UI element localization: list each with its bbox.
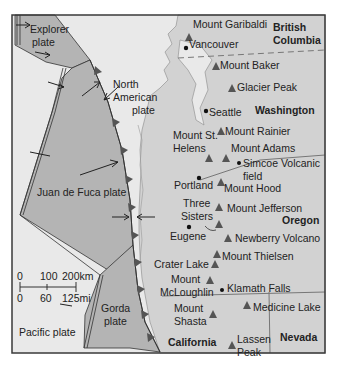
city-vancouver xyxy=(184,46,188,50)
label-juan-de-fuca-plate: Juan de Fuca plate xyxy=(37,186,126,198)
cascadia-map: Explorer plate North American plate Juan… xyxy=(0,0,338,374)
label-north-american-1: North xyxy=(113,78,139,90)
label-newberry-volcano: Newberry Volcano xyxy=(235,232,320,244)
label-mount-mcloughlin-1: Mount xyxy=(171,273,200,285)
label-portland: Portland xyxy=(174,179,213,191)
label-klamath-falls: Klamath Falls xyxy=(227,282,291,294)
label-crater-lake: Crater Lake xyxy=(154,258,209,270)
label-british-columbia-2: Columbia xyxy=(273,34,321,46)
scale-km-100: 100 xyxy=(40,270,58,282)
label-gorda-plate-1: Gorda xyxy=(101,302,130,314)
city-seattle xyxy=(204,109,208,113)
label-british-columbia-1: British xyxy=(273,21,306,33)
label-three-sisters-1: Three xyxy=(183,197,211,209)
label-mount-baker: Mount Baker xyxy=(220,59,280,71)
scale-mi-60: 60 xyxy=(40,292,52,304)
label-medicine-lake: Medicine Lake xyxy=(253,301,321,313)
label-north-american-3: plate xyxy=(132,104,155,116)
label-gorda-plate-2: plate xyxy=(104,315,127,327)
label-seattle: Seattle xyxy=(209,106,242,118)
scale-km-200: 200km xyxy=(62,270,94,282)
label-north-american-2: American xyxy=(113,91,158,103)
label-vancouver: Vancouver xyxy=(189,38,239,50)
scale-km-0: 0 xyxy=(17,270,23,282)
label-simcoe-1: Simcoe Volcanic xyxy=(243,157,320,169)
label-pacific-plate: Pacific plate xyxy=(19,326,76,338)
label-mount-garibaldi: Mount Garibaldi xyxy=(193,18,267,30)
city-klamath-falls xyxy=(220,288,224,292)
label-mount-st-helens-2: Helens xyxy=(173,142,206,154)
label-lassen-peak-1: Lassen xyxy=(237,333,271,345)
label-mount-shasta-2: Shasta xyxy=(174,315,207,327)
label-california: California xyxy=(168,336,217,348)
scale-mi-125: 125mi xyxy=(62,292,91,304)
label-eugene: Eugene xyxy=(170,230,206,242)
label-simcoe-2: field xyxy=(243,170,262,182)
label-mount-mcloughlin-2: McLoughlin xyxy=(160,286,214,298)
label-mount-thielsen: Mount Thielsen xyxy=(222,250,294,262)
label-mount-hood: Mount Hood xyxy=(224,182,281,194)
city-eugene xyxy=(187,225,191,229)
label-mount-adams: Mount Adams xyxy=(231,142,295,154)
label-glacier-peak: Glacier Peak xyxy=(237,81,298,93)
label-mount-shasta-1: Mount xyxy=(174,302,203,314)
scale-mi-0: 0 xyxy=(17,292,23,304)
label-explorer-plate-1: Explorer xyxy=(30,23,70,35)
label-lassen-peak-2: Peak xyxy=(237,346,262,358)
label-washington: Washington xyxy=(255,104,315,116)
label-mount-st-helens-1: Mount St. xyxy=(173,129,218,141)
label-explorer-plate-2: plate xyxy=(32,36,55,48)
label-nevada: Nevada xyxy=(280,331,318,343)
label-mount-jefferson: Mount Jefferson xyxy=(227,202,302,214)
label-oregon: Oregon xyxy=(282,214,319,226)
label-three-sisters-2: Sisters xyxy=(181,210,213,222)
city-simcoe xyxy=(237,161,241,165)
label-mount-rainier: Mount Rainier xyxy=(225,125,291,137)
